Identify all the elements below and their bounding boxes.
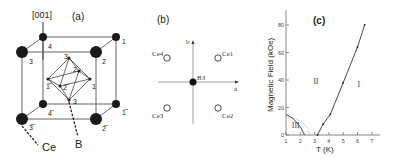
ce4-label: Ce4 [152,50,164,58]
svg-text:80: 80 [278,22,284,28]
svg-text:20: 20 [278,105,284,111]
svg-text:40: 40 [278,77,284,83]
site-number: 1̅ [122,109,129,116]
panel-b-basal-plane: (b) b a B3 Ce1 Ce2 Ce3 Ce4 [135,0,240,164]
svg-text:60: 60 [278,50,284,56]
panel-b-label: (b) [157,14,169,25]
site-number: 3 [29,58,33,65]
ce-atom [90,113,102,125]
ce1-label: Ce1 [222,50,234,58]
panel-a-crystal-structure: [001] (a) [0,0,135,164]
svg-text:3: 3 [313,138,316,144]
ce-site [164,105,170,111]
ce2-label: Ce2 [222,112,234,120]
site-number: 3̅ [29,124,36,131]
svg-text:5: 5 [342,138,345,144]
x-ticks: 1234567 [284,132,373,144]
ce-atom [112,100,120,108]
site-number: 1 [92,83,96,90]
svg-text:4: 4 [327,138,330,144]
axis-a-label: a [234,85,238,93]
ce-site [215,105,221,111]
b3-atom [190,79,197,86]
svg-text:2: 2 [299,138,302,144]
plane-diagram: (b) b a B3 Ce1 Ce2 Ce3 Ce4 [135,0,240,164]
panel-c-phase-diagram: (c) 020406080 1234567 Magnetic Field (kO… [240,0,396,164]
ce-label: Ce [42,141,56,153]
svg-text:1: 1 [284,138,287,144]
ce-atom [16,113,28,125]
site-number: 3 [64,53,68,60]
chart-title: (c) [313,15,325,26]
y-axis-label: Magnetic Field (kOe) [266,37,275,112]
svg-text:7: 7 [370,138,373,144]
ce-site [215,55,221,61]
panel-a-label: (a) [72,11,84,22]
site-number: 3 [73,98,77,105]
ce-atom [16,46,28,58]
site-number: 2̅ [63,84,70,91]
axis-b-label: b [186,38,190,46]
ce-atom [90,46,102,58]
ce-atom [39,100,47,108]
svg-text:I: I [358,80,361,89]
b3-label: B3 [197,74,206,82]
phase-boundaries [286,24,366,136]
svg-text:II: II [313,77,319,86]
svg-text:6: 6 [356,138,359,144]
svg-text:III: III [292,121,300,130]
ce-atom [112,33,120,41]
site-number: 4̅ [48,110,55,117]
phase-chart: (c) 020406080 1234567 Magnetic Field (kO… [240,0,396,164]
b-label: B [75,138,82,150]
ce-atom [39,33,47,41]
ce3-label: Ce3 [152,112,164,120]
cube-diagram: [001] (a) [0,0,135,164]
site-number: 1̅ [46,83,53,90]
y-ticks: 020406080 [278,22,289,138]
site-number: 1 [122,38,126,45]
x-axis-label: T (K) [316,145,334,154]
direction-label: [001] [32,10,52,20]
site-number: 4 [48,43,52,50]
site-number: 2 [73,66,77,73]
site-number: 2̅ [102,125,109,132]
ce-site [164,55,170,61]
site-number: 2 [102,58,106,65]
